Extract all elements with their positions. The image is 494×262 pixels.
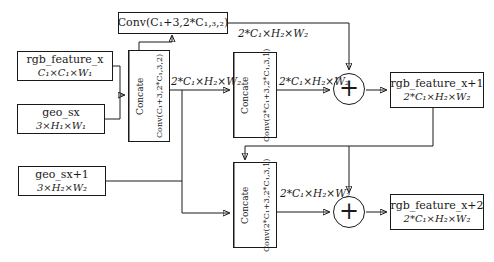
box-rgb-feature-x-plus-1: rgb_feature_x+1 2*C₁×H₂×W₂ [390, 72, 484, 108]
block-concate-conv-1: Concate Conv(C₁+3,2*C₁,3,2) [128, 50, 170, 142]
edge-label-conv1-out: 2*C₁×H₂×W₂ [171, 75, 241, 87]
block3-conv-label: Conv(2*C₁+3,2*C₁,3,1) [256, 163, 277, 247]
box-rgb-feature-x: rgb_feature_x C₁×C₁×W₁ [17, 51, 113, 81]
geo-sx-plus-1-title: geo_sx+1 [35, 169, 89, 182]
rgb-feature-x-plus-1-title: rgb_feature_x+1 [390, 78, 483, 91]
rgb-feature-x-plus-1-dims: 2*C₁×H₂×W₂ [404, 91, 471, 103]
geo-sx-title: geo_sx [42, 107, 80, 120]
block2-concate-label: Concate [234, 53, 256, 137]
block1-concate-label: Concate [129, 51, 150, 141]
box-shortcut-conv: Conv(C₁+3,2*C₁,₃,₂) [118, 12, 228, 34]
plus-icon: + [339, 199, 359, 223]
geo-sx-dims: 3×H₁×W₁ [36, 120, 86, 132]
rgb-feature-x-dims: C₁×C₁×W₁ [38, 67, 92, 79]
block1-conv-label: Conv(C₁+3,2*C₁,3,2) [150, 51, 170, 141]
block-concate-conv-3: Concate Conv(2*C₁+3,2*C₁,3,1) [233, 162, 277, 248]
block2-conv-label: Conv(2*C₁+3,2*C₁,3,1) [256, 53, 277, 137]
shortcut-conv-label: Conv(C₁+3,2*C₁,₃,₂) [118, 17, 229, 30]
box-geo-sx: geo_sx 3×H₁×W₁ [17, 104, 105, 134]
rgb-feature-x-plus-2-title: rgb_feature_x+2 [390, 200, 483, 213]
diagram-canvas: Conv(C₁+3,2*C₁,₃,₂) rgb_feature_x C₁×C₁×… [0, 0, 494, 262]
adder-2: + [333, 196, 365, 228]
rgb-feature-x-title: rgb_feature_x [27, 54, 104, 67]
box-geo-sx-plus-1: geo_sx+1 3×H₂×W₂ [18, 166, 106, 196]
edge-concate1-to-shortcut-conv [139, 36, 172, 50]
geo-sx-plus-1-dims: 3×H₂×W₂ [37, 182, 87, 194]
rgb-feature-x-plus-2-dims: 2*C₁×H₂×W₂ [404, 213, 471, 225]
edge-label-shortcut-out: 2*C₁×H₂×W₂ [238, 27, 308, 39]
edge-label-conv3-out: 2*C₁×H₂×W₂ [280, 187, 350, 199]
block3-concate-label: Concate [234, 163, 256, 247]
block-concate-conv-2: Concate Conv(2*C₁+3,2*C₁,3,1) [233, 52, 277, 138]
edge-label-conv2-out: 2*C₁×H₂×W₂ [279, 75, 349, 87]
box-rgb-feature-x-plus-2: rgb_feature_x+2 2*C₁×H₂×W₂ [390, 194, 484, 230]
